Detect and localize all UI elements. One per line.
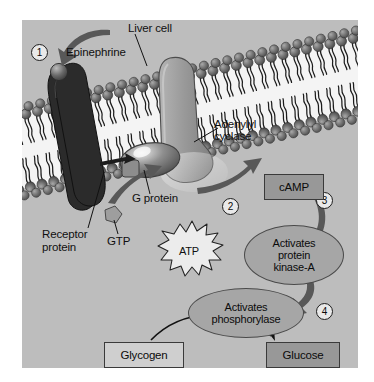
kinase-line2: protein — [273, 249, 316, 261]
label-atp: ATP — [179, 245, 199, 257]
diagram-panel: Liver cell Epinephrine Adenylyl cyclase … — [22, 20, 358, 368]
label-adenylyl-cyclase-line2: cyclase — [214, 130, 251, 143]
kinase-line3: kinase-A — [273, 261, 316, 273]
label-receptor-protein-line2: protein — [42, 241, 76, 254]
phosphorylase-line1: Activates — [212, 301, 281, 313]
gtp-molecule — [105, 206, 122, 223]
label-adenylyl-cyclase-line1: Adenylyl — [214, 118, 256, 131]
node-activates-protein-kinase-a[interactable]: Activates protein kinase-A — [244, 225, 344, 285]
phosphorylase-line2: phosphorylase — [212, 313, 281, 325]
node-camp[interactable]: cAMP — [264, 174, 324, 200]
figure-root: Liver cell Epinephrine Adenylyl cyclase … — [0, 0, 374, 382]
node-glycogen[interactable]: Glycogen — [104, 342, 184, 368]
label-epinephrine: Epinephrine — [66, 46, 126, 59]
epinephrine-molecule — [50, 63, 67, 80]
step-number-1: 1 — [31, 44, 48, 61]
step-number-2: 2 — [222, 198, 239, 215]
label-g-protein: G protein — [132, 192, 178, 205]
step-number-4: 4 — [316, 303, 333, 320]
label-gtp: GTP — [107, 235, 130, 248]
node-glucose[interactable]: Glucose — [266, 342, 340, 368]
label-liver-cell: Liver cell — [128, 22, 172, 35]
node-activates-phosphorylase[interactable]: Activates phosphorylase — [188, 288, 304, 338]
label-receptor-protein-line1: Receptor — [42, 228, 87, 241]
kinase-line1: Activates — [273, 237, 316, 249]
